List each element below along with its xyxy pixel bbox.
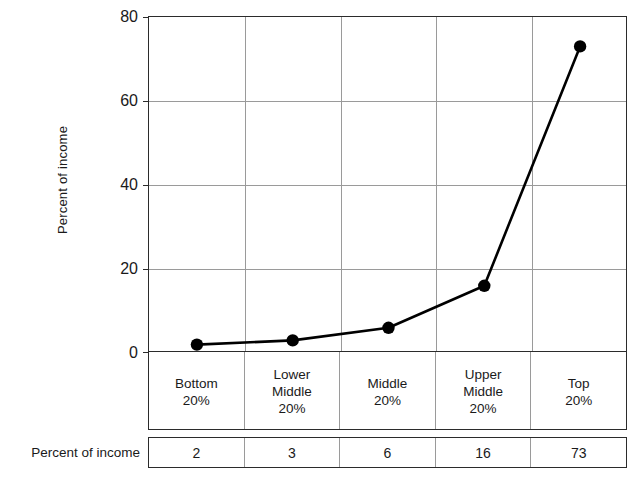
category-cell-top: Top 20% bbox=[531, 352, 626, 429]
data-point-3 bbox=[478, 280, 490, 292]
y-tick-label-60: 60 bbox=[120, 92, 138, 109]
y-axis-tick-labels: 80 60 40 20 0 bbox=[100, 0, 138, 482]
series-markers bbox=[191, 40, 587, 351]
category-label-bottom-line1: Bottom bbox=[175, 375, 218, 392]
category-label-top-line2: 20% bbox=[565, 392, 592, 409]
chart-page: Percent of income 80 60 40 20 0 bbox=[0, 0, 639, 482]
data-cell-upper-middle: 16 bbox=[436, 438, 532, 467]
data-cell-middle: 6 bbox=[340, 438, 436, 467]
category-cell-lower-middle: Lower Middle 20% bbox=[245, 352, 341, 429]
category-label-upper-middle-line2: Middle bbox=[463, 383, 503, 400]
data-cell-bottom: 2 bbox=[149, 438, 245, 467]
category-label-top-line1: Top bbox=[565, 375, 592, 392]
category-label-upper-middle-line1: Upper bbox=[463, 366, 503, 383]
category-cell-middle: Middle 20% bbox=[340, 352, 436, 429]
data-point-1 bbox=[287, 334, 299, 346]
category-label-upper-middle-line3: 20% bbox=[463, 400, 503, 417]
data-row-label: Percent of income bbox=[8, 437, 140, 468]
data-point-4 bbox=[574, 40, 586, 52]
y-tick-label-40: 40 bbox=[120, 176, 138, 193]
data-point-2 bbox=[382, 322, 394, 334]
category-label-middle-line2: 20% bbox=[368, 392, 408, 409]
category-label-lower-middle-line3: 20% bbox=[272, 400, 312, 417]
y-axis-title: Percent of income bbox=[55, 126, 70, 234]
data-point-0 bbox=[191, 338, 203, 350]
plot-area bbox=[148, 16, 627, 352]
category-label-bottom-line2: 20% bbox=[175, 392, 218, 409]
y-tick-label-20: 20 bbox=[120, 260, 138, 277]
category-label-middle-line1: Middle bbox=[368, 375, 408, 392]
data-cell-lower-middle: 3 bbox=[245, 438, 341, 467]
category-label-lower-middle-line1: Lower bbox=[272, 366, 312, 383]
data-cell-top: 73 bbox=[531, 438, 626, 467]
category-cell-upper-middle: Upper Middle 20% bbox=[436, 352, 532, 429]
category-label-lower-middle-line2: Middle bbox=[272, 383, 312, 400]
data-series bbox=[149, 17, 628, 353]
data-table-row: 2 3 6 16 73 bbox=[148, 437, 627, 468]
series-line bbox=[197, 46, 580, 344]
category-axis-band: Bottom 20% Lower Middle 20% Middle 20% U… bbox=[148, 352, 627, 430]
category-cell-bottom: Bottom 20% bbox=[149, 352, 245, 429]
y-tick-label-80: 80 bbox=[120, 8, 138, 25]
y-tick-label-0: 0 bbox=[129, 344, 138, 361]
